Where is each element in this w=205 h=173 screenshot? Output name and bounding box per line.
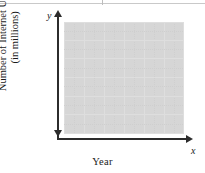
y-axis-up-arrow-icon — [54, 10, 62, 17]
y-axis-title-line-2: (in millions) — [9, 0, 21, 97]
gridline-vertical — [94, 22, 95, 134]
gridline-horizontal — [64, 31, 184, 32]
gridline-horizontal — [64, 58, 184, 59]
y-axis-line — [57, 16, 59, 140]
gridline-vertical — [134, 22, 135, 134]
x-axis-right-arrow-icon — [186, 135, 193, 143]
y-axis-title: Number of Internet Users (in millions) — [0, 0, 21, 97]
gridline-vertical — [74, 22, 75, 134]
y-axis-title-line-1: Number of Internet Users — [0, 0, 9, 97]
gridline-horizontal — [64, 124, 184, 125]
gridline-vertical — [154, 22, 155, 134]
gridline-vertical — [164, 22, 165, 134]
x-axis-line — [57, 138, 188, 140]
x-axis-title: Year — [0, 156, 205, 167]
gridline-vertical — [114, 22, 115, 134]
chart-figure: y x Year Number of Internet Users (in mi… — [0, 0, 205, 173]
gridline-vertical — [84, 22, 85, 134]
gridline-horizontal — [64, 68, 184, 69]
gridline-horizontal — [64, 96, 184, 97]
gridline-vertical — [144, 22, 145, 134]
gridline-horizontal — [64, 49, 184, 50]
gridline-horizontal — [64, 86, 184, 87]
gridline-vertical — [183, 22, 184, 134]
gridline-horizontal — [64, 40, 184, 41]
gridline-horizontal — [64, 133, 184, 134]
gridline-vertical — [64, 22, 65, 134]
x-axis-variable-label: x — [191, 146, 195, 156]
plot-area — [64, 22, 184, 134]
gridline-vertical — [104, 22, 105, 134]
gridline-horizontal — [64, 114, 184, 115]
gridline-horizontal — [64, 22, 184, 23]
gridline-vertical — [174, 22, 175, 134]
gridline-vertical — [124, 22, 125, 134]
page-top-rule-tick — [102, 0, 103, 5]
gridline-horizontal — [64, 105, 184, 106]
y-axis-down-arrow-icon — [54, 130, 62, 137]
y-axis-variable-label: y — [47, 11, 51, 21]
gridline-horizontal — [64, 77, 184, 78]
